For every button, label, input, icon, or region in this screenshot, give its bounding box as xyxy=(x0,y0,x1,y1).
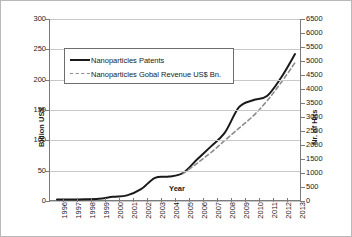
x-axis-tick-label: 1996 xyxy=(60,202,69,219)
x-axis-tick-label: 2002 xyxy=(144,202,153,219)
x-axis-tick-label: 1998 xyxy=(88,202,97,219)
x-axis-tick-label: 2009 xyxy=(242,202,251,219)
legend-item: Nanoparticles Gobal Revenue US$ Bn. xyxy=(70,67,228,81)
y-axis-left-tick-mark xyxy=(45,49,49,50)
x-axis-tick-mark xyxy=(300,198,301,202)
x-axis-tick-mark xyxy=(217,198,218,202)
chart-legend: Nanoparticles Patents Nanoparticles Goba… xyxy=(64,48,234,84)
gridline xyxy=(50,171,300,172)
x-axis-tick-mark xyxy=(189,198,190,202)
x-axis-tick-label: 1999 xyxy=(102,202,111,219)
y-axis-right-tick-label: 1500 xyxy=(306,155,323,163)
x-axis-title: Year xyxy=(1,184,352,193)
y-axis-right-tick-mark xyxy=(301,47,305,48)
y-axis-right-tick-mark xyxy=(301,33,305,34)
x-axis-tick-label: 2007 xyxy=(214,202,223,219)
x-axis-tick-mark xyxy=(133,198,134,202)
y-axis-right-tick-mark xyxy=(301,117,305,118)
y-axis-right-tick-label: 4500 xyxy=(306,71,323,79)
y-axis-left-tick-mark xyxy=(45,80,49,81)
y-axis-right-tick-mark xyxy=(301,19,305,20)
x-axis-tick-mark xyxy=(203,198,204,202)
x-axis-tick-mark xyxy=(119,198,120,202)
x-axis-tick-mark xyxy=(49,198,50,202)
x-axis-tick-mark xyxy=(175,198,176,202)
y-axis-right-tick-mark xyxy=(301,75,305,76)
y-axis-right-title: Nr. of Hits xyxy=(310,110,319,145)
y-axis-right-tick-label: 5500 xyxy=(306,43,323,51)
x-axis-tick-label: 2011 xyxy=(270,202,279,218)
y-axis-right-tick-mark xyxy=(301,173,305,174)
x-axis-tick-mark xyxy=(245,198,246,202)
x-axis-tick-label: 2008 xyxy=(228,202,237,219)
x-axis-tick-mark xyxy=(77,198,78,202)
x-axis-tick-label: 2010 xyxy=(256,202,265,219)
gridline xyxy=(50,140,300,141)
x-axis-tick-label: 2003 xyxy=(158,202,167,219)
x-axis-tick-label: 1997 xyxy=(74,202,83,219)
y-axis-left-tick-mark xyxy=(45,171,49,172)
x-axis-tick-mark xyxy=(259,198,260,202)
y-axis-right-tick-label: 1000 xyxy=(306,169,323,177)
x-axis-tick-mark xyxy=(287,198,288,202)
y-axis-right-tick-mark xyxy=(301,159,305,160)
x-axis-tick-mark xyxy=(231,198,232,202)
x-axis-tick-mark xyxy=(105,198,106,202)
x-axis-tick-label: 2005 xyxy=(186,202,195,219)
y-axis-right-tick-mark xyxy=(301,89,305,90)
y-axis-right-tick-label: 6500 xyxy=(306,15,323,23)
y-axis-right-tick-label: 4000 xyxy=(306,85,323,93)
x-axis-tick-label: 2000 xyxy=(116,202,125,219)
x-axis-ticks: 1996199719981999200020012002200320042005… xyxy=(49,202,301,236)
x-axis-tick-label: 2013 xyxy=(298,202,307,219)
y-axis-right-tick-mark xyxy=(301,103,305,104)
x-axis-tick-label: 2012 xyxy=(284,202,293,219)
x-axis-tick-label: 2006 xyxy=(200,202,209,219)
gridline xyxy=(50,110,300,111)
y-axis-left-tick-mark xyxy=(45,19,49,20)
y-axis-right-tick-mark xyxy=(301,145,305,146)
legend-swatch-dashed-icon xyxy=(70,70,90,78)
x-axis-tick-mark xyxy=(147,198,148,202)
y-axis-right-tick-mark xyxy=(301,61,305,62)
x-axis-tick-mark xyxy=(273,198,274,202)
x-axis-tick-label: 2001 xyxy=(130,202,139,219)
x-axis-tick-mark xyxy=(161,198,162,202)
chart-figure: 050100150200250300 050010001500200025003… xyxy=(0,0,352,237)
y-axis-right-tick-label: 6000 xyxy=(306,29,323,37)
x-axis-tick-label: 2004 xyxy=(172,202,181,219)
legend-swatch-solid-icon xyxy=(70,56,90,64)
y-axis-right-tick-mark xyxy=(301,131,305,132)
y-axis-right-tick-label: 5000 xyxy=(306,57,323,65)
x-axis-tick-mark xyxy=(63,198,64,202)
plot-area xyxy=(49,19,301,201)
legend-item-label: Nanoparticles Gobal Revenue US$ Bn. xyxy=(90,70,221,79)
legend-item-label: Nanoparticles Patents xyxy=(90,56,164,65)
gridline xyxy=(50,19,300,20)
x-axis-tick-mark xyxy=(91,198,92,202)
y-axis-left-title: Billion US$ xyxy=(37,107,46,147)
y-axis-right-tick-label: 3500 xyxy=(306,99,323,107)
legend-item: Nanoparticles Patents xyxy=(70,53,228,67)
